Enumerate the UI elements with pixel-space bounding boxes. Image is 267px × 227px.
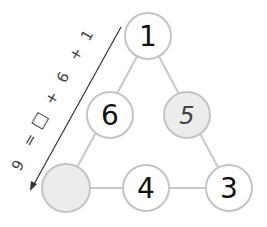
node-mid-left-value: 6: [101, 99, 119, 132]
node-mid-right-value: 5: [179, 102, 194, 130]
eq-token-box: □: [26, 108, 51, 132]
eq-token-1: 1: [77, 27, 97, 44]
equation-annotation: 1 + 6 + □ = 9: [8, 27, 97, 174]
node-bottom-left[interactable]: [42, 164, 90, 212]
eq-token-9: 9: [8, 157, 28, 174]
node-top-value: 1: [139, 20, 157, 53]
eq-token-plus-1: +: [65, 44, 87, 64]
eq-token-equals: =: [19, 130, 41, 150]
node-bottom-right-value: 3: [220, 172, 238, 205]
node-bottom-mid-value: 4: [137, 172, 155, 205]
eq-token-6: 6: [53, 69, 73, 86]
triangle-puzzle: 1 + 6 + □ = 9 1 6 5 4 3: [0, 0, 267, 227]
eq-token-plus-2: +: [41, 88, 63, 108]
